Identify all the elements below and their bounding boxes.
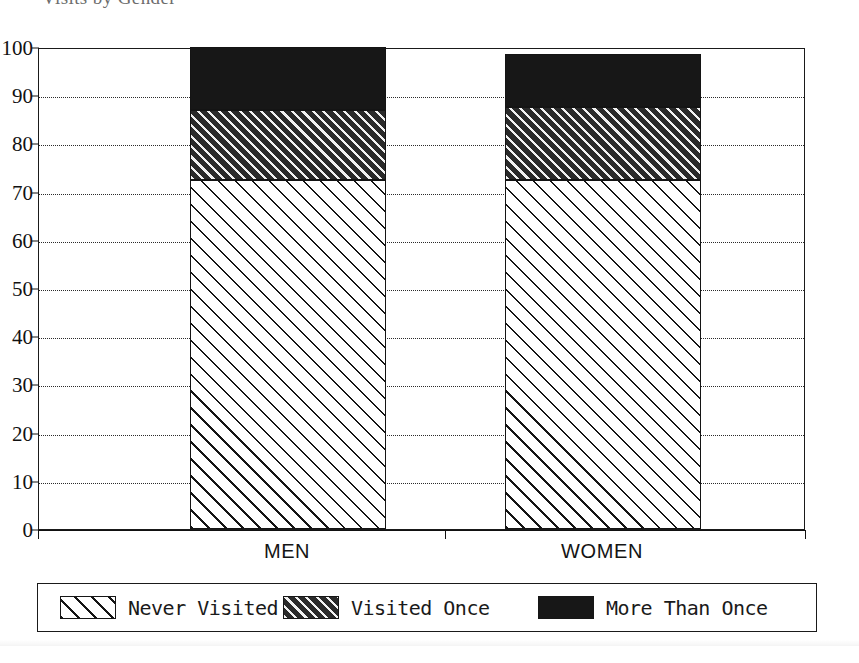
bar-segment-men-visited-once[interactable] xyxy=(190,110,386,180)
legend-swatch-light-diagonal-hatch xyxy=(60,596,116,619)
y-tick-label-90: 90 xyxy=(12,84,33,109)
y-tick-label-80: 80 xyxy=(12,132,33,157)
y-tick-mark-10 xyxy=(32,481,39,482)
bar-women[interactable] xyxy=(505,47,701,529)
y-tick-mark-50 xyxy=(32,289,39,290)
bar-segment-women-never-visited[interactable] xyxy=(505,180,701,529)
y-tick-mark-20 xyxy=(32,433,39,434)
y-tick-mark-90 xyxy=(32,96,39,97)
legend-item-more-than-once[interactable]: More Than Once xyxy=(538,596,768,620)
legend-label-text: Visited Once xyxy=(351,596,490,620)
plot-area xyxy=(38,48,805,530)
y-tick-label-50: 50 xyxy=(12,277,33,302)
y-tick-label-30: 30 xyxy=(12,373,33,398)
y-tick-label-60: 60 xyxy=(12,228,33,253)
y-tick-label-100: 100 xyxy=(2,36,34,61)
y-tick-mark-0 xyxy=(32,530,39,531)
x-axis-line xyxy=(38,530,805,531)
legend-item-never-visited[interactable]: Never Visited xyxy=(60,596,278,620)
chart-title-text: Visits by Gender xyxy=(42,0,176,9)
legend-item-visited-once[interactable]: Visited Once xyxy=(283,596,490,620)
x-category-label-men: MEN xyxy=(264,540,310,563)
y-tick-mark-70 xyxy=(32,192,39,193)
legend-label-text: More Than Once xyxy=(606,596,768,620)
legend-label-text: Never Visited xyxy=(128,596,278,620)
y-tick-mark-100 xyxy=(32,48,39,49)
x-tick-mark-0 xyxy=(38,530,39,539)
bar-segment-men-more-than-once[interactable] xyxy=(190,47,386,110)
y-tick-label-40: 40 xyxy=(12,325,33,350)
bar-segment-men-never-visited[interactable] xyxy=(190,180,386,529)
y-tick-mark-40 xyxy=(32,337,39,338)
legend-swatch-solid-black xyxy=(538,596,594,619)
bar-segment-women-more-than-once[interactable] xyxy=(505,54,701,107)
chart-title-cropped: Visits by Gender xyxy=(0,0,859,14)
y-tick-mark-30 xyxy=(32,385,39,386)
scan-artifact xyxy=(0,640,859,646)
bar-segment-women-visited-once[interactable] xyxy=(505,107,701,179)
y-tick-label-10: 10 xyxy=(12,469,33,494)
x-tick-mark-1 xyxy=(445,530,446,539)
chart-figure: Visits by Gender 1009080706050403020100 … xyxy=(0,0,859,663)
y-tick-label-20: 20 xyxy=(12,421,33,446)
y-tick-mark-60 xyxy=(32,240,39,241)
y-tick-mark-80 xyxy=(32,144,39,145)
y-tick-label-70: 70 xyxy=(12,180,33,205)
chart-legend: Never VisitedVisited OnceMore Than Once xyxy=(37,583,817,632)
y-axis: 1009080706050403020100 xyxy=(0,48,33,530)
legend-swatch-dark-diagonal-hatch xyxy=(283,596,339,619)
bar-men[interactable] xyxy=(190,47,386,529)
x-tick-mark-2 xyxy=(805,530,806,539)
x-category-label-women: WOMEN xyxy=(561,540,643,563)
